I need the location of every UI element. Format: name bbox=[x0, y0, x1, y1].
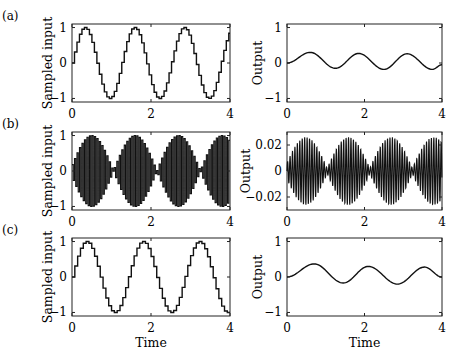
axes-frame bbox=[287, 24, 442, 102]
figure: (a)024−101Sampled input024−101Output(b)0… bbox=[0, 0, 467, 363]
x-tick-label: 4 bbox=[438, 321, 446, 335]
x-axis-label: Time bbox=[349, 335, 381, 350]
subplot-a-left: 024−101Sampled input bbox=[40, 17, 234, 121]
y-tick-label: 0 bbox=[274, 270, 282, 284]
x-tick-label: 0 bbox=[68, 321, 76, 335]
subplot-c-right: 024−101OutputTime bbox=[250, 235, 446, 350]
data-trace bbox=[72, 136, 230, 207]
x-tick-label: 0 bbox=[68, 107, 76, 121]
subplot-b-left: 024−101Sampled input bbox=[40, 125, 234, 229]
y-axis-label: Sampled input bbox=[40, 125, 55, 217]
y-tick-label: 0 bbox=[59, 56, 67, 70]
x-tick-label: 0 bbox=[283, 107, 291, 121]
y-tick-label: 1 bbox=[274, 21, 282, 35]
y-tick-label: −1 bbox=[264, 91, 282, 105]
x-tick-label: 2 bbox=[147, 321, 155, 335]
x-tick-label: 2 bbox=[361, 215, 369, 229]
subplot-b-right: 024−0.0200.02Output bbox=[238, 132, 446, 229]
y-axis-label: Sampled input bbox=[40, 17, 55, 109]
subplot-c-left: 024−101Sampled inputTime bbox=[40, 231, 234, 350]
x-tick-label: 0 bbox=[283, 215, 291, 229]
y-tick-label: 1 bbox=[59, 129, 67, 143]
x-tick-label: 4 bbox=[226, 321, 234, 335]
y-tick-label: 0 bbox=[59, 270, 67, 284]
x-tick-label: 2 bbox=[147, 107, 155, 121]
data-trace bbox=[287, 52, 442, 69]
x-tick-label: 0 bbox=[283, 321, 291, 335]
axes-frame bbox=[72, 24, 230, 102]
y-tick-label: 0.02 bbox=[255, 138, 282, 152]
x-tick-label: 4 bbox=[226, 107, 234, 121]
panel-label: (a) bbox=[2, 9, 19, 23]
subplot-a-right: 024−101Output bbox=[250, 21, 446, 121]
y-tick-label: 0 bbox=[59, 164, 67, 178]
y-tick-label: 1 bbox=[274, 235, 282, 249]
data-trace bbox=[287, 137, 442, 205]
data-trace bbox=[72, 242, 230, 313]
x-axis-label: Time bbox=[135, 335, 167, 350]
panel-label: (b) bbox=[2, 117, 19, 131]
x-tick-label: 4 bbox=[438, 107, 446, 121]
data-trace bbox=[287, 264, 442, 284]
y-tick-label: 1 bbox=[59, 21, 67, 35]
x-tick-label: 4 bbox=[438, 215, 446, 229]
y-tick-label: 0 bbox=[274, 164, 282, 178]
y-tick-label: 0 bbox=[274, 56, 282, 70]
y-axis-label: Output bbox=[250, 255, 265, 299]
axes-frame bbox=[287, 238, 442, 316]
x-tick-label: 2 bbox=[361, 321, 369, 335]
y-axis-label: Sampled input bbox=[40, 231, 55, 323]
x-tick-label: 0 bbox=[68, 215, 76, 229]
x-tick-label: 4 bbox=[226, 215, 234, 229]
y-tick-label: 1 bbox=[59, 235, 67, 249]
x-tick-label: 2 bbox=[147, 215, 155, 229]
panel-label: (c) bbox=[2, 223, 18, 237]
y-axis-label: Output bbox=[238, 149, 253, 193]
data-trace bbox=[72, 28, 230, 99]
y-tick-label: −1 bbox=[264, 305, 282, 319]
y-axis-label: Output bbox=[250, 41, 265, 85]
x-tick-label: 2 bbox=[361, 107, 369, 121]
